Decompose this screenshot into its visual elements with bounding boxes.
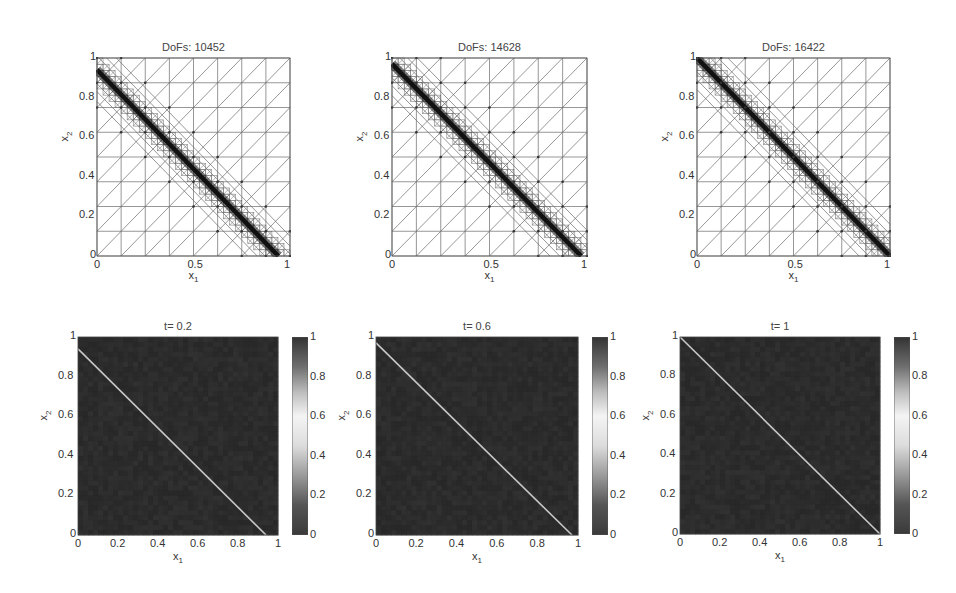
colorbar-tick-label: 0.8 bbox=[310, 370, 325, 382]
y-tick-label: 1 bbox=[690, 50, 696, 62]
y-tick-label: 0.6 bbox=[660, 408, 675, 420]
colorbar-tick-label: 0 bbox=[610, 528, 616, 540]
colorbar-tick-label: 0.4 bbox=[310, 449, 325, 461]
y-axis-label: x2 bbox=[658, 132, 673, 142]
y-tick-label: 0.2 bbox=[374, 208, 389, 220]
colorbar-tick-label: 0.2 bbox=[310, 488, 325, 500]
y-axis-label: x2 bbox=[639, 410, 654, 420]
y-tick-label: 1 bbox=[672, 329, 678, 341]
x-tick-label: 0.2 bbox=[712, 536, 727, 548]
y-tick-label: 0.6 bbox=[679, 129, 694, 141]
y-axis-label: x2 bbox=[58, 132, 73, 142]
colorbar bbox=[894, 337, 910, 534]
x-tick-label: 1 bbox=[284, 258, 290, 270]
colorbar bbox=[292, 337, 308, 535]
plot-title: t= 1 bbox=[680, 320, 880, 332]
x-tick-label: 1 bbox=[877, 536, 883, 548]
plot-title: DoFs: 10452 bbox=[97, 41, 290, 53]
y-tick-label: 0.2 bbox=[79, 208, 94, 220]
y-tick-label: 0 bbox=[690, 248, 696, 260]
x-tick-label: 1 bbox=[884, 258, 890, 270]
y-axis-label: x2 bbox=[37, 411, 52, 421]
y-tick-label: 0 bbox=[385, 248, 391, 260]
colorbar-tick-label: 0.2 bbox=[912, 488, 927, 500]
y-tick-label: 0.6 bbox=[374, 129, 389, 141]
y-tick-label: 0.4 bbox=[79, 169, 94, 181]
colorbar-tick-label: 1 bbox=[310, 330, 316, 342]
heatmap-canvas bbox=[375, 336, 579, 536]
y-tick-label: 1 bbox=[70, 329, 76, 341]
y-tick-label: 0.4 bbox=[660, 447, 675, 459]
y-tick-label: 0.6 bbox=[79, 129, 94, 141]
y-tick-label: 1 bbox=[90, 50, 96, 62]
colorbar-tick-label: 0.6 bbox=[310, 409, 325, 421]
y-tick-label: 0.4 bbox=[679, 169, 694, 181]
x-tick-label: 0.6 bbox=[489, 537, 504, 549]
y-tick-label: 0 bbox=[90, 248, 96, 260]
y-tick-label: 0.2 bbox=[356, 487, 371, 499]
heatmap-canvas bbox=[679, 336, 881, 535]
x-tick-label: 0.4 bbox=[752, 536, 767, 548]
x-axis-label: x1 bbox=[775, 549, 785, 564]
y-tick-label: 0.2 bbox=[679, 208, 694, 220]
colorbar bbox=[592, 337, 608, 535]
x-tick-label: 0.8 bbox=[832, 536, 847, 548]
x-tick-label: 0.2 bbox=[110, 537, 125, 549]
y-axis-label: x2 bbox=[353, 132, 368, 142]
x-tick-label: 0.8 bbox=[230, 537, 245, 549]
colorbar-tick-label: 0 bbox=[310, 528, 316, 540]
colorbar-tick-label: 0.6 bbox=[912, 409, 927, 421]
heatmap-canvas bbox=[77, 336, 279, 536]
x-axis-label: x1 bbox=[472, 550, 482, 565]
y-tick-label: 0.2 bbox=[58, 487, 73, 499]
y-tick-label: 0 bbox=[672, 526, 678, 538]
x-tick-label: 1 bbox=[275, 537, 281, 549]
x-axis-label: x1 bbox=[173, 550, 183, 565]
x-tick-label: 0.6 bbox=[792, 536, 807, 548]
colorbar-tick-label: 0.2 bbox=[610, 488, 625, 500]
y-tick-label: 0.4 bbox=[356, 448, 371, 460]
colorbar-tick-label: 0 bbox=[912, 527, 918, 539]
plot-title: t= 0.2 bbox=[78, 320, 278, 332]
y-tick-label: 0 bbox=[70, 527, 76, 539]
x-axis-label: x1 bbox=[789, 269, 799, 284]
plot-title: t= 0.6 bbox=[376, 320, 578, 332]
y-tick-label: 0.8 bbox=[58, 369, 73, 381]
mesh-canvas bbox=[696, 57, 891, 257]
mesh-canvas bbox=[391, 57, 588, 257]
y-tick-label: 0.8 bbox=[660, 368, 675, 380]
x-tick-label: 0.2 bbox=[408, 537, 423, 549]
colorbar-tick-label: 0.6 bbox=[610, 409, 625, 421]
plot-title: DoFs: 16422 bbox=[697, 41, 890, 53]
colorbar-tick-label: 1 bbox=[610, 330, 616, 342]
x-tick-label: 1 bbox=[581, 258, 587, 270]
x-tick-label: 0.4 bbox=[150, 537, 165, 549]
colorbar-tick-label: 0.8 bbox=[912, 369, 927, 381]
y-tick-label: 0.8 bbox=[374, 90, 389, 102]
colorbar-tick-label: 0.4 bbox=[912, 448, 927, 460]
colorbar-tick-label: 0.4 bbox=[610, 449, 625, 461]
x-tick-label: 0.4 bbox=[449, 537, 464, 549]
y-tick-label: 0.8 bbox=[679, 90, 694, 102]
x-tick-label: 0.6 bbox=[190, 537, 205, 549]
colorbar-tick-label: 1 bbox=[912, 330, 918, 342]
y-tick-label: 0.2 bbox=[660, 487, 675, 499]
y-tick-label: 1 bbox=[385, 50, 391, 62]
y-tick-label: 0.6 bbox=[356, 408, 371, 420]
y-tick-label: 0.4 bbox=[58, 448, 73, 460]
y-tick-label: 0.8 bbox=[79, 90, 94, 102]
x-axis-label: x1 bbox=[189, 269, 199, 284]
x-tick-label: 0.8 bbox=[530, 537, 545, 549]
x-tick-label: 1 bbox=[575, 537, 581, 549]
y-tick-label: 0.4 bbox=[374, 169, 389, 181]
mesh-canvas bbox=[96, 57, 291, 257]
y-tick-label: 1 bbox=[368, 329, 374, 341]
y-tick-label: 0.6 bbox=[58, 408, 73, 420]
x-axis-label: x1 bbox=[485, 269, 495, 284]
y-tick-label: 0 bbox=[368, 527, 374, 539]
colorbar-tick-label: 0.8 bbox=[610, 370, 625, 382]
y-tick-label: 0.8 bbox=[356, 369, 371, 381]
y-axis-label: x2 bbox=[335, 411, 350, 421]
plot-title: DoFs: 14628 bbox=[392, 41, 587, 53]
